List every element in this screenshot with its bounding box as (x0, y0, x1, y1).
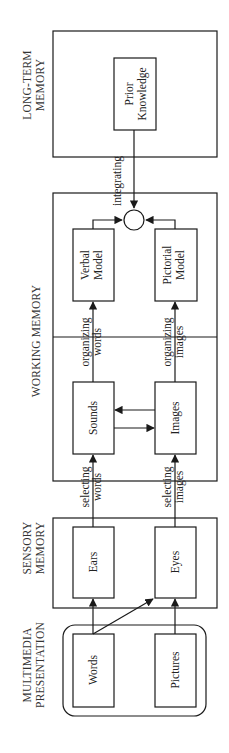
words-to-eyes-arrow (93, 599, 153, 634)
prior-knowledge-box (114, 58, 156, 130)
eyes-label: Eyes (169, 550, 182, 573)
pictures-label: Pictures (169, 651, 181, 689)
organizing-images-label: organizing images (161, 317, 186, 366)
svg-text:MEMORY: MEMORY (34, 521, 46, 574)
verbal-to-integration-arrow (93, 220, 122, 229)
sensory-memory-box (53, 518, 217, 608)
svg-text:images: images (173, 325, 186, 358)
words-label: Words (87, 655, 99, 685)
svg-text:Knowledge: Knowledge (136, 67, 149, 120)
images-label: Images (169, 401, 182, 435)
svg-text:words: words (91, 327, 103, 356)
long-term-memory-box (53, 31, 217, 157)
selecting-words-label: selecting words (79, 466, 103, 507)
selecting-images-label: selecting images (161, 466, 186, 507)
integrating-label: integrating (111, 156, 124, 206)
svg-text:PRESENTATION: PRESENTATION (34, 622, 46, 708)
prior-knowledge-label: Prior Knowledge (123, 67, 149, 120)
section-label-multimedia-presentation: MULTIMEDIA PRESENTATION (21, 622, 46, 708)
svg-text:Model: Model (92, 250, 104, 280)
svg-text:words: words (91, 472, 103, 501)
svg-text:WORKING MEMORY: WORKING MEMORY (30, 284, 42, 397)
svg-text:MEMORY: MEMORY (34, 58, 46, 111)
svg-text:Pictorial: Pictorial (161, 246, 173, 285)
integration-node (124, 210, 144, 230)
svg-text:MULTIMEDIA: MULTIMEDIA (21, 627, 33, 703)
svg-text:LONG-TERM: LONG-TERM (21, 50, 33, 120)
svg-text:Model: Model (174, 250, 186, 280)
svg-text:Verbal: Verbal (79, 250, 91, 280)
svg-text:SENSORY: SENSORY (21, 521, 33, 575)
svg-text:images: images (173, 470, 186, 503)
svg-text:Prior: Prior (123, 82, 135, 105)
organizing-words-label: organizing words (79, 317, 103, 366)
multimedia-learning-diagram: LONG-TERM MEMORY WORKING MEMORY SENSORY … (0, 0, 229, 753)
pictorial-to-integration-arrow (146, 220, 175, 229)
multimedia-presentation-box (63, 625, 206, 716)
section-label-working-memory: WORKING MEMORY (30, 284, 42, 397)
pictorial-model-label: Pictorial Model (161, 246, 186, 285)
section-label-long-term-memory: LONG-TERM MEMORY (21, 50, 46, 120)
sounds-label: Sounds (87, 401, 99, 435)
ears-label: Ears (87, 551, 99, 572)
section-label-sensory-memory: SENSORY MEMORY (21, 521, 46, 575)
verbal-model-label: Verbal Model (79, 250, 104, 280)
